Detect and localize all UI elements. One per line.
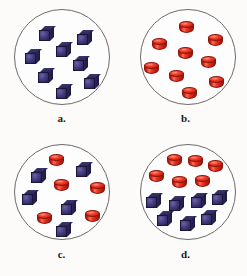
figure-root: a. b. c. d.	[0, 0, 247, 276]
panel-b: b.	[124, 0, 247, 138]
panel-label-a: a.	[0, 112, 123, 124]
container-circle-b	[140, 9, 236, 105]
panel-label-c: c.	[0, 248, 123, 260]
container-circle-c	[14, 144, 110, 240]
container-circle-d	[140, 144, 236, 240]
panel-label-d: d.	[124, 248, 247, 260]
panel-d: d.	[124, 138, 247, 276]
panel-a: a.	[0, 0, 123, 138]
panel-label-b: b.	[124, 112, 247, 124]
container-circle-a	[14, 9, 110, 105]
panel-c: c.	[0, 138, 123, 276]
